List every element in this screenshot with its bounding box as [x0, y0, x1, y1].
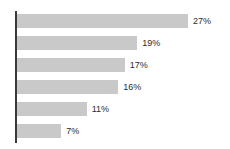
- bar-1: [17, 36, 137, 50]
- bar-2: [17, 58, 125, 72]
- table-row: 17%: [17, 58, 148, 72]
- bar-value-label-0: 27%: [193, 17, 211, 26]
- bar-0: [17, 14, 188, 28]
- table-row: 19%: [17, 36, 160, 50]
- table-row: 7%: [17, 124, 79, 138]
- table-row: 27%: [17, 14, 211, 28]
- bar-value-label-5: 7%: [66, 127, 79, 136]
- bar-4: [17, 102, 87, 116]
- bar-value-label-1: 19%: [142, 39, 160, 48]
- bar-value-label-3: 16%: [123, 83, 141, 92]
- bar-chart: 27% 19% 17% 16% 11% 7%: [0, 0, 230, 149]
- bar-series: 27% 19% 17% 16% 11% 7%: [17, 14, 230, 149]
- bar-value-label-4: 11%: [92, 105, 109, 114]
- table-row: 11%: [17, 102, 109, 116]
- bar-5: [17, 124, 61, 138]
- table-row: 16%: [17, 80, 141, 94]
- bar-3: [17, 80, 118, 94]
- plot-area: 27% 19% 17% 16% 11% 7%: [0, 0, 230, 149]
- bar-value-label-2: 17%: [130, 61, 148, 70]
